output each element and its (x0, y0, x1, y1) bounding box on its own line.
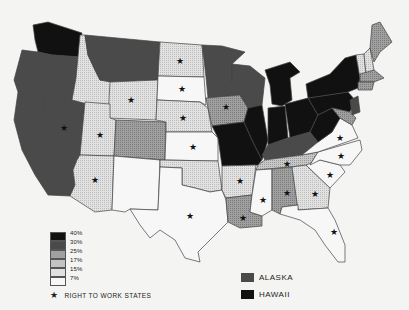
star-icon-va: ★ (336, 133, 344, 143)
state-or[interactable] (14, 50, 80, 100)
state-ct[interactable] (358, 82, 374, 90)
star-icon-ms: ★ (259, 195, 267, 205)
state-wa[interactable] (33, 22, 82, 57)
star-icon-nc: ★ (337, 151, 345, 161)
star-icon-sd: ★ (178, 84, 186, 94)
inset-hawaii: HAWAII (241, 288, 293, 300)
state-me[interactable] (370, 22, 392, 62)
state-mi[interactable] (265, 62, 300, 106)
star-icon-nd: ★ (176, 56, 184, 66)
star-icon-wy: ★ (127, 95, 135, 105)
state-nm[interactable] (112, 156, 160, 212)
star-icon-tn: ★ (283, 159, 291, 169)
star-icon-ut: ★ (96, 130, 104, 140)
right-to-work-legend: ★ RIGHT TO WORK STATES (50, 290, 151, 300)
state-ny[interactable] (306, 55, 360, 98)
star-icon-al: ★ (283, 188, 291, 198)
star-icon-ne: ★ (179, 113, 187, 123)
state-co[interactable] (114, 120, 166, 160)
star-icon-fl: ★ (330, 227, 338, 237)
star-icon-ar: ★ (236, 176, 244, 186)
star-icon-az: ★ (91, 175, 99, 185)
inset-alaska: ALASKA (241, 271, 293, 283)
star-icon: ★ (50, 290, 58, 300)
star-icon-ks: ★ (189, 142, 197, 152)
star-icon-nv: ★ (60, 123, 68, 133)
inset-legend: ALASKA HAWAII (241, 271, 293, 305)
star-icon-ia: ★ (222, 102, 230, 112)
legend-item-7: 7% (50, 277, 83, 286)
star-icon-tx: ★ (186, 211, 194, 221)
star-icon-la: ★ (239, 213, 247, 223)
union-membership-map: ★ ★ ★ ★ ★ ★ ★ ★ ★ ★ ★ ★ ★ ★ ★ ★ ★ ★ ★ ★ … (0, 0, 409, 310)
legend: 40% 30% 25% 17% 15% 7% (50, 232, 83, 286)
star-icon-sc: ★ (326, 170, 334, 180)
star-icon-ga: ★ (311, 189, 319, 199)
